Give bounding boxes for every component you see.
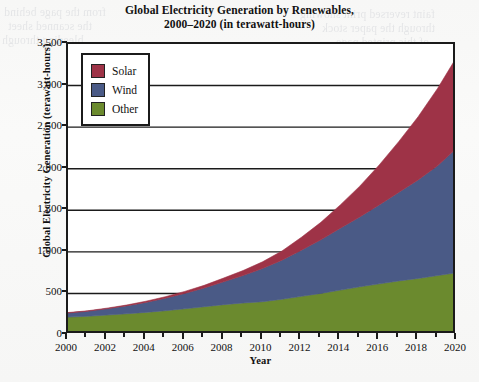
x-tick-mark-2005 <box>162 333 164 337</box>
x-tick-mark-2004 <box>143 333 145 339</box>
x-tick-label-2020: 2020 <box>433 341 477 353</box>
x-tick-mark-2015 <box>357 333 359 337</box>
legend-label-wind: Wind <box>112 84 137 96</box>
x-tick-label-2012: 2012 <box>277 341 321 353</box>
x-tick-label-2008: 2008 <box>200 341 244 353</box>
x-tick-mark-2003 <box>123 333 125 337</box>
x-tick-mark-2018 <box>415 333 417 339</box>
x-tick-mark-2011 <box>279 333 281 337</box>
y-axis-ticks: 05001,0001,5002,0002,5003,0003,500 <box>22 42 62 333</box>
x-tick-mark-2020 <box>454 333 456 339</box>
legend-label-solar: Solar <box>112 65 136 77</box>
x-tick-mark-2014 <box>337 333 339 339</box>
x-tick-mark-2007 <box>201 333 203 337</box>
legend-label-other: Other <box>112 103 138 115</box>
y-tick-label-3500: 3,500 <box>26 37 62 48</box>
chart-title: Global Electricity Generation by Renewab… <box>0 4 479 31</box>
chart-title-line-1: Global Electricity Generation by Renewab… <box>125 4 354 16</box>
legend-swatch-wind <box>91 83 105 97</box>
y-tick-label-500: 500 <box>26 286 62 297</box>
x-tick-label-2004: 2004 <box>122 341 166 353</box>
legend-item-wind: Wind <box>91 80 138 99</box>
y-tick-label-0: 0 <box>26 328 62 339</box>
x-tick-label-2018: 2018 <box>394 341 438 353</box>
x-tick-mark-2000 <box>65 333 67 339</box>
y-tick-label-1000: 1,000 <box>26 244 62 255</box>
x-tick-mark-2012 <box>298 333 300 339</box>
x-tick-mark-2001 <box>84 333 86 337</box>
x-tick-label-2014: 2014 <box>316 341 360 353</box>
chart-title-line-2: 2000–2020 (in terawatt-hours) <box>0 18 479 32</box>
x-tick-mark-2006 <box>182 333 184 339</box>
x-tick-mark-2019 <box>435 333 437 337</box>
x-axis-title: Year <box>66 355 455 366</box>
legend-item-other: Other <box>91 99 138 118</box>
legend-item-solar: Solar <box>91 61 138 80</box>
x-tick-mark-2002 <box>104 333 106 339</box>
legend: SolarWindOther <box>81 53 150 126</box>
legend-swatch-other <box>91 102 105 116</box>
x-tick-mark-2013 <box>318 333 320 337</box>
x-tick-label-2016: 2016 <box>355 341 399 353</box>
x-tick-label-2006: 2006 <box>161 341 205 353</box>
y-tick-label-1500: 1,500 <box>26 203 62 214</box>
legend-swatch-solar <box>91 64 105 78</box>
x-tick-mark-2017 <box>396 333 398 337</box>
x-tick-label-2000: 2000 <box>44 341 88 353</box>
y-tick-label-3000: 3,000 <box>26 78 62 89</box>
x-tick-mark-2008 <box>221 333 223 339</box>
y-tick-label-2500: 2,500 <box>26 120 62 131</box>
y-tick-label-2000: 2,000 <box>26 161 62 172</box>
x-tick-mark-2009 <box>240 333 242 337</box>
x-tick-label-2002: 2002 <box>83 341 127 353</box>
x-tick-mark-2010 <box>260 333 262 339</box>
x-tick-mark-2016 <box>376 333 378 339</box>
x-tick-label-2010: 2010 <box>239 341 283 353</box>
